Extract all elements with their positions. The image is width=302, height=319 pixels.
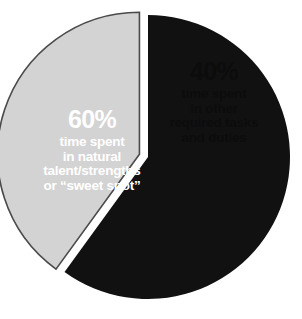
pie-chart: 60% time spent in natural talent/strengt… bbox=[0, 0, 302, 319]
pie-label-minor-line-4: and duties bbox=[155, 131, 273, 146]
pie-label-minor-line-2: in other bbox=[155, 102, 273, 117]
pie-label-minor-percent: 40% bbox=[155, 58, 273, 85]
pie-label-major-line-1: time spent bbox=[12, 135, 172, 150]
pie-label-major-line-4: or “sweet spot” bbox=[12, 179, 172, 194]
pie-label-minor-line-1: time spent bbox=[155, 87, 273, 102]
pie-label-major-line-2: in natural bbox=[12, 150, 172, 165]
pie-label-major-line-3: talent/strengths bbox=[12, 164, 172, 179]
pie-label-major: 60% time spent in natural talent/strengt… bbox=[12, 106, 172, 193]
pie-label-minor-line-3: required tasks bbox=[155, 116, 273, 131]
pie-label-major-percent: 60% bbox=[12, 106, 172, 133]
pie-label-minor: 40% time spent in other required tasks a… bbox=[155, 58, 273, 145]
